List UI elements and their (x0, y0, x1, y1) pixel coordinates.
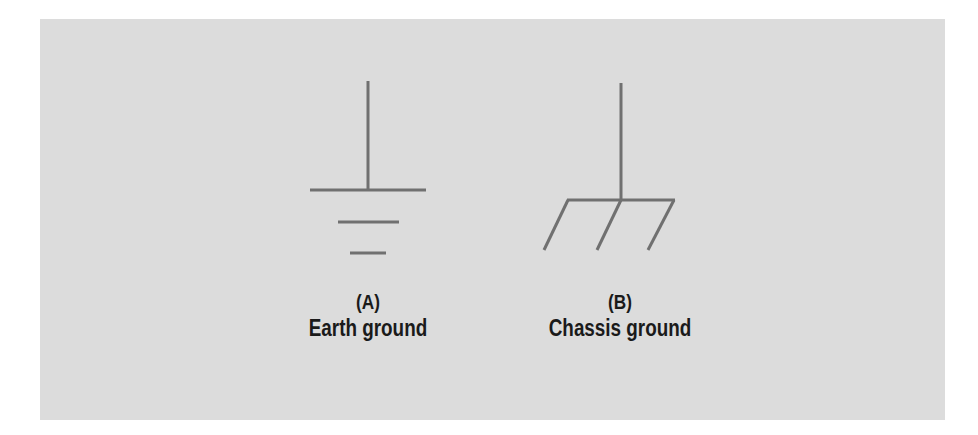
caption-name: Chassis ground (538, 315, 702, 341)
chassis-ground-icon (544, 83, 675, 250)
caption-letter: (A) (286, 289, 450, 315)
caption-chassis-ground: (B) Chassis ground (538, 289, 702, 341)
ground-symbols-figure (0, 0, 978, 435)
caption-earth-ground: (A) Earth ground (286, 289, 450, 341)
caption-name: Earth ground (286, 315, 450, 341)
caption-letter: (B) (538, 289, 702, 315)
earth-ground-icon (310, 81, 426, 253)
